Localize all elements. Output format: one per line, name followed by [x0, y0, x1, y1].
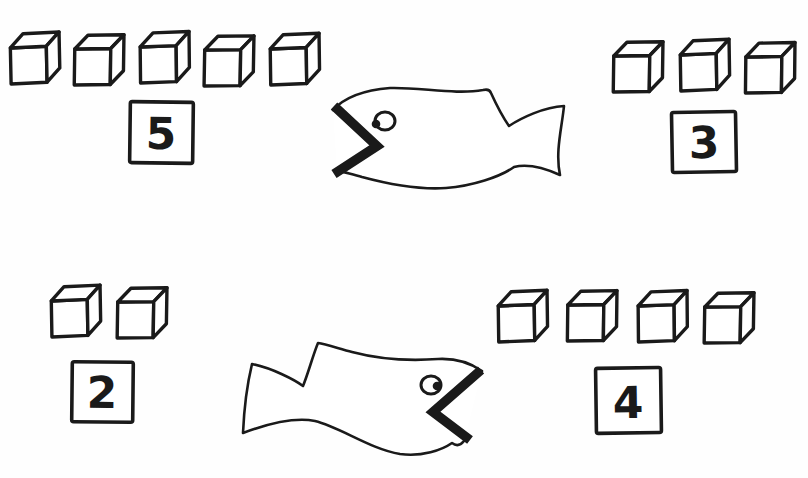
- cube-row-top-left: [10, 31, 320, 86]
- fish-pupil: [433, 382, 442, 391]
- cube-icon: [51, 285, 101, 337]
- cube-icon: [10, 32, 60, 84]
- number-box-top-right: 3: [671, 111, 736, 172]
- fish-bottom: [243, 343, 482, 455]
- worksheet-drawing: 5 3: [0, 0, 808, 478]
- number-label: 2: [86, 367, 117, 418]
- number-box-bottom-left: 2: [72, 362, 134, 423]
- number-label: 5: [145, 108, 176, 159]
- cube-row-bottom-left: [51, 285, 167, 339]
- cube-icon: [498, 290, 548, 342]
- cube-row-top-right: [613, 39, 795, 93]
- cube-icon: [204, 35, 254, 87]
- problem-top: 5 3: [10, 31, 795, 188]
- cube-icon: [745, 42, 795, 94]
- worksheet-page: 5 3: [0, 0, 808, 478]
- cube-icon: [638, 291, 687, 342]
- number-label: 4: [612, 377, 643, 428]
- cube-icon: [117, 287, 167, 339]
- fish-top: [333, 88, 564, 188]
- number-box-bottom-right: 4: [596, 368, 662, 434]
- fish-pupil: [372, 120, 381, 129]
- cube-icon: [704, 292, 754, 344]
- cube-icon: [567, 290, 617, 342]
- cube-row-bottom-right: [498, 290, 754, 344]
- cube-icon: [680, 39, 730, 91]
- cube-icon: [613, 41, 663, 93]
- number-label: 3: [688, 117, 720, 169]
- cube-icon: [140, 31, 190, 83]
- problem-bottom: 2 4: [51, 285, 754, 455]
- cube-icon: [74, 34, 124, 86]
- cube-icon: [270, 33, 320, 85]
- number-box-top-left: 5: [130, 102, 194, 164]
